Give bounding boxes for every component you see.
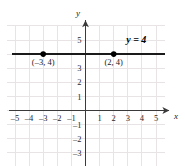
y-tick-label: 5 <box>77 35 81 45</box>
x-tick-label: –2 <box>52 113 62 123</box>
plotted-point <box>111 51 117 57</box>
equation-annotation: y = 4 <box>125 34 146 45</box>
x-tick-label: 5 <box>154 113 158 123</box>
y-tick-label: –2 <box>72 134 82 144</box>
y-axis-label: y <box>75 8 80 18</box>
x-tick-label: –4 <box>24 113 34 123</box>
x-tick-label: –3 <box>38 113 48 123</box>
y-tick-label: 1 <box>77 92 81 102</box>
x-tick-label: 2 <box>112 113 116 123</box>
y-tick-label: 2 <box>77 77 81 87</box>
x-tick-label: –5 <box>10 113 20 123</box>
figure-background <box>0 0 185 166</box>
coordinate-plane-figure: –5–4–3–2–1123455321–1–2–3 (–3, 4)(2, 4) … <box>0 0 185 166</box>
point-coordinate-label: (2, 4) <box>104 57 123 67</box>
x-axis-label: x <box>173 111 178 121</box>
x-tick-label: 1 <box>97 113 101 123</box>
plotted-point <box>40 51 46 57</box>
point-coordinate-label: (–3, 4) <box>32 57 55 67</box>
y-tick-label: –1 <box>72 120 82 130</box>
y-tick-label: 3 <box>77 63 81 73</box>
annotations: y = 4 <box>125 34 146 45</box>
x-tick-label: 4 <box>140 113 145 123</box>
x-tick-label: 3 <box>126 113 130 123</box>
graph-canvas: –5–4–3–2–1123455321–1–2–3 (–3, 4)(2, 4) … <box>0 0 185 166</box>
y-tick-label: –3 <box>72 148 82 158</box>
